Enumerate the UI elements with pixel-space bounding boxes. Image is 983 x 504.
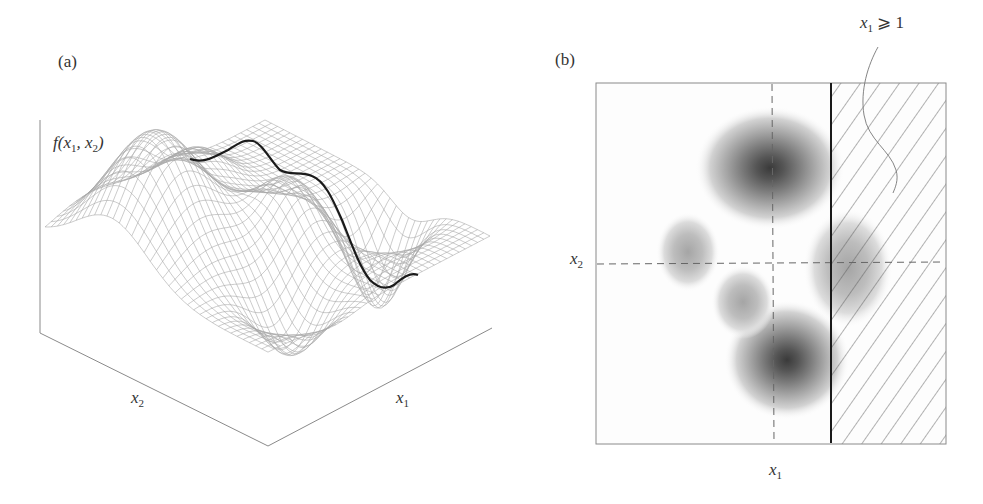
infeasible-hatched-region <box>831 83 946 444</box>
panel-b-contour-plot <box>0 0 983 504</box>
